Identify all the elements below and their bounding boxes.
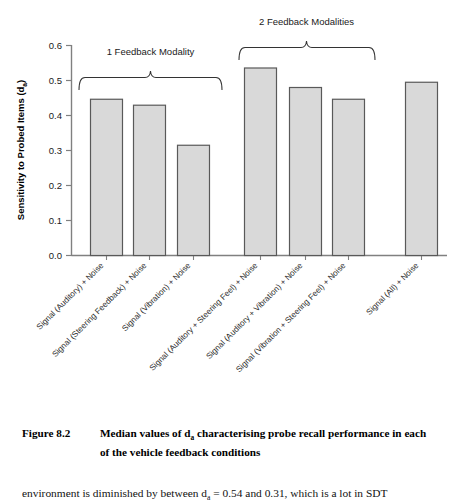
- y-axis-title: Sensitivity to Probed Items (da): [15, 80, 28, 220]
- figure-caption: Figure 8.2 Median values of da character…: [22, 426, 434, 460]
- y-tick-label-0: 0.0: [49, 250, 62, 261]
- y-tick-label-1: 0.1: [49, 215, 62, 226]
- figure-caption-text: Median values of da characterising probe…: [100, 426, 434, 460]
- x-tick-label-6: Signal (All) + Noise: [365, 261, 421, 317]
- body-paragraph-part2: = 0.54 and 0.31, which is a lot in SDT: [210, 487, 387, 499]
- figure-caption-number: Figure 8.2: [22, 426, 100, 441]
- x-tick-label-4: Signal (Auditory + Vibration) + Noise: [205, 261, 305, 361]
- bracket-label-2-feedback-modalities: 2 Feedback Modalities: [259, 16, 354, 27]
- bar-1[interactable]: [134, 105, 166, 255]
- bar-6[interactable]: [406, 82, 438, 255]
- bracket-group-2: [239, 41, 375, 60]
- y-axis-title-tail: ): [15, 80, 26, 83]
- bar-series: [91, 68, 438, 256]
- y-tick-label-5: 0.5: [49, 75, 62, 86]
- figure-container: 0.0 0.1 0.2 0.3 0.4 0.5 0.6 Sensitivity …: [0, 0, 451, 410]
- x-tick-label-1: Signal (Steering Feedback) + Noise: [50, 261, 148, 359]
- y-tick-label-4: 0.4: [49, 110, 62, 121]
- y-tick-label-2: 0.2: [49, 180, 62, 191]
- bar-3[interactable]: [245, 68, 277, 256]
- y-axis-ticks: [66, 46, 72, 256]
- bar-4[interactable]: [290, 88, 322, 256]
- y-axis-title-main: Sensitivity to Probed Items (d: [15, 86, 26, 220]
- body-paragraph-part1: environment is diminished by between d: [22, 487, 207, 499]
- bracket-group-1: [79, 71, 222, 90]
- bracket-label-1-feedback-modality: 1 Feedback Modality: [107, 46, 195, 57]
- bar-chart: 0.0 0.1 0.2 0.3 0.4 0.5 0.6 Sensitivity …: [0, 0, 451, 410]
- body-paragraph: environment is diminished by between da …: [22, 486, 451, 503]
- y-tick-label-6: 0.6: [49, 40, 62, 51]
- bar-2[interactable]: [178, 145, 210, 255]
- y-tick-label-3: 0.3: [49, 145, 62, 156]
- bar-5[interactable]: [333, 99, 365, 255]
- x-tick-label-0: Signal (Auditory) + Noise: [35, 261, 106, 332]
- figure-caption-text-part1: Median values of d: [100, 427, 190, 439]
- bar-0[interactable]: [91, 99, 123, 255]
